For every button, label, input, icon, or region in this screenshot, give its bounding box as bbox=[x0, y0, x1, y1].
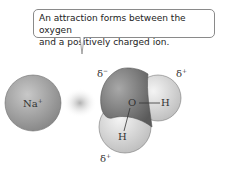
sodium-label: Na+ bbox=[23, 97, 43, 109]
hydrogen-right-label: H bbox=[161, 97, 170, 108]
oxygen-label: O bbox=[128, 97, 136, 108]
ion-water-diagram bbox=[0, 0, 226, 169]
attraction-glow bbox=[63, 88, 97, 118]
oxygen-partial-charge: δ− bbox=[97, 67, 108, 79]
hydrogen-right-partial-charge: δ+ bbox=[176, 67, 187, 79]
hydrogen-bottom-label: H bbox=[118, 131, 127, 142]
hydrogen-bottom-partial-charge: δ+ bbox=[100, 152, 111, 164]
